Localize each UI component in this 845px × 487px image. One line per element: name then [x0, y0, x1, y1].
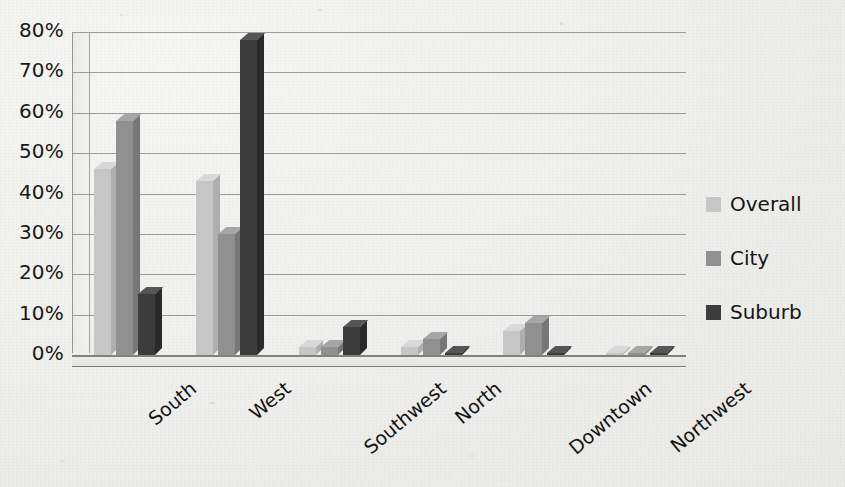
bar-southwest-suburb[interactable]: [343, 327, 360, 355]
paper-speck: [60, 460, 64, 462]
legend-label: Overall: [730, 192, 801, 216]
bar-group: [584, 32, 686, 355]
gridline-0: [72, 355, 686, 357]
bar-face: [94, 169, 111, 355]
bar-face: [321, 347, 338, 355]
bar-face: [299, 347, 316, 355]
legend-label: Suburb: [730, 300, 802, 324]
bar-south-overall[interactable]: [94, 169, 111, 355]
bar-group: [174, 32, 276, 355]
bar-northwest-suburb[interactable]: [650, 353, 667, 355]
bar-downtown-overall[interactable]: [503, 331, 520, 355]
suburb-swatch: [706, 305, 721, 320]
bar-northwest-city[interactable]: [628, 353, 645, 355]
bar-face: [343, 327, 360, 355]
bar-face: [401, 347, 418, 355]
paper-speck: [318, 9, 322, 11]
bar-face: [445, 353, 462, 355]
paper-speck: [120, 14, 123, 16]
bar-southwest-city[interactable]: [321, 347, 338, 355]
bar-face: [606, 353, 623, 355]
legend-item-suburb[interactable]: Suburb: [706, 300, 802, 324]
legend-item-overall[interactable]: Overall: [706, 192, 802, 216]
overall-swatch: [706, 197, 721, 212]
bar-west-city[interactable]: [218, 234, 235, 355]
bar-face: [503, 331, 520, 355]
bar-downtown-suburb[interactable]: [547, 353, 564, 355]
bar-west-overall[interactable]: [196, 181, 213, 355]
bar-face: [628, 353, 645, 355]
bar-face: [218, 234, 235, 355]
paper-speck: [210, 402, 215, 404]
bar-face: [116, 121, 133, 355]
bar-face: [240, 40, 257, 355]
bar-northwest-overall[interactable]: [606, 353, 623, 355]
bar-north-city[interactable]: [423, 339, 440, 355]
bar-south-suburb[interactable]: [138, 294, 155, 355]
paper-speck: [470, 455, 474, 457]
bar-side-face: [257, 33, 264, 355]
bar-group: [379, 32, 481, 355]
bar-group: [72, 32, 174, 355]
bar-face: [650, 353, 667, 355]
bar-face: [423, 339, 440, 355]
bar-face: [138, 294, 155, 355]
bar-west-suburb[interactable]: [240, 40, 257, 355]
bar-top-face: [650, 346, 675, 353]
legend-label: City: [730, 246, 769, 270]
bar-north-overall[interactable]: [401, 347, 418, 355]
bar-south-city[interactable]: [116, 121, 133, 355]
bar-face: [525, 323, 542, 355]
bar-side-face: [155, 287, 162, 355]
legend-item-city[interactable]: City: [706, 246, 802, 270]
bar-north-suburb[interactable]: [445, 353, 462, 355]
bar-face: [547, 353, 564, 355]
paper-speck: [560, 22, 563, 25]
legend: OverallCitySuburb: [706, 192, 802, 324]
bar-face: [196, 181, 213, 355]
bar-downtown-city[interactable]: [525, 323, 542, 355]
bar-group: [277, 32, 379, 355]
bar-southwest-overall[interactable]: [299, 347, 316, 355]
bar-group: [481, 32, 583, 355]
city-swatch: [706, 251, 721, 266]
plot-area: [72, 32, 686, 355]
